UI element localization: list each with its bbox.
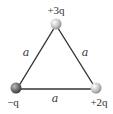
charge-sphere-bottom-left xyxy=(11,83,22,94)
charge-label-bottom-right: +2q xyxy=(90,96,108,108)
charge-label-bottom-left: −q xyxy=(7,96,19,108)
triangle-diagram: +3q −q +2q a a a xyxy=(0,0,113,114)
side-label-right: a xyxy=(82,46,89,59)
side-label-left: a xyxy=(23,46,30,59)
charge-sphere-bottom-right xyxy=(91,83,102,94)
edge-right xyxy=(56,25,96,89)
charge-label-top: +3q xyxy=(47,4,65,16)
charge-sphere-top xyxy=(51,19,62,30)
side-label-bottom: a xyxy=(52,92,59,105)
